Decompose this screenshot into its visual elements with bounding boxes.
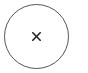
close-icon — [32, 32, 41, 41]
close-button[interactable] — [4, 4, 69, 69]
